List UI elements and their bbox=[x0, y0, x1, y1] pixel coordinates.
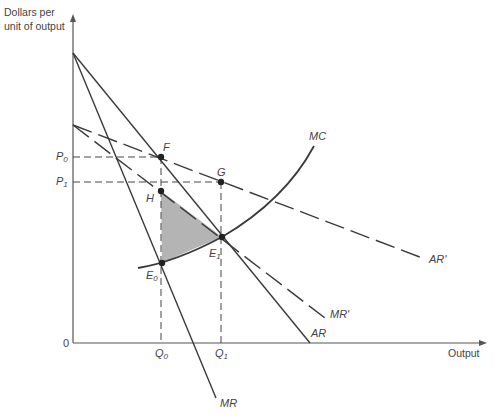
point-h bbox=[158, 188, 164, 194]
f-label: F bbox=[163, 142, 170, 153]
ar-label: AR bbox=[311, 328, 326, 339]
x-axis-label: Output bbox=[448, 348, 480, 359]
q1-label: Q1 bbox=[215, 348, 228, 361]
point-g bbox=[218, 179, 224, 185]
diagram-canvas bbox=[0, 0, 495, 416]
mr-label: MR bbox=[220, 398, 237, 409]
e1-label: E1 bbox=[209, 248, 221, 261]
q0-label: Q0 bbox=[155, 348, 168, 361]
point-f bbox=[158, 154, 164, 160]
p1-label: P1 bbox=[56, 176, 68, 189]
mc-label: MC bbox=[309, 131, 326, 142]
x-axis-arrow bbox=[479, 340, 487, 346]
point-e0 bbox=[159, 260, 165, 266]
g-label: G bbox=[217, 167, 226, 178]
e0-label: E0 bbox=[146, 270, 158, 283]
origin-label: 0 bbox=[63, 338, 69, 349]
y-axis-label: Dollars per unit of output bbox=[4, 5, 94, 33]
y-axis-label-line2: unit of output bbox=[4, 20, 65, 32]
point-e1 bbox=[219, 234, 225, 240]
mr-prime-label: MR' bbox=[330, 309, 349, 320]
ar-prime-curve bbox=[73, 125, 425, 259]
y-axis-label-line1: Dollars per bbox=[4, 6, 55, 18]
ar-prime-label: AR' bbox=[429, 254, 446, 265]
p0-label: P0 bbox=[56, 151, 68, 164]
h-label: H bbox=[146, 193, 154, 204]
